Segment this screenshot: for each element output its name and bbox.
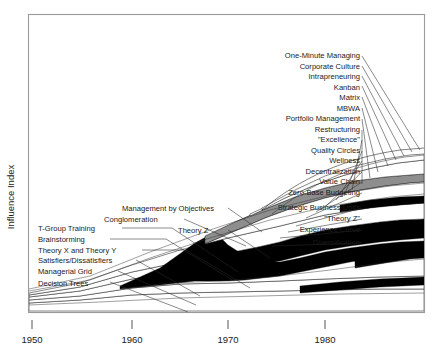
- x-tick-label-1980: 1980: [314, 334, 335, 345]
- series-label-zero-base-budgeting: Zero-Base Budgeting: [288, 188, 360, 197]
- series-label-diversification: Diversification: [313, 238, 360, 247]
- x-tick-label-1950: 1950: [21, 334, 42, 345]
- series-label-conglomeration: Conglomeration: [104, 215, 158, 224]
- series-label-theory-z-quoted: "Theory Z": [324, 214, 360, 223]
- series-label-management-by-objectives: Management by Objectives: [122, 204, 214, 213]
- series-label-decentralization: Decentralization: [306, 167, 360, 176]
- influence-index-streamgraph: One-Minute Managing Corporate Culture In…: [0, 0, 440, 359]
- series-label-value-chain: Value Chain: [319, 177, 360, 186]
- series-label-wellness: Wellness: [329, 156, 360, 165]
- series-label-matrix: Matrix: [339, 93, 360, 102]
- series-label-intrapreneuring: Intrapreneuring: [308, 72, 360, 81]
- series-label-kanban: Kanban: [334, 83, 360, 92]
- x-tick-label-1970: 1970: [217, 334, 238, 345]
- series-label-t-group-training: T-Group Training: [38, 224, 95, 233]
- series-label-one-minute-managing: One-Minute Managing: [285, 51, 360, 60]
- series-label-managerial-grid: Managerial Grid: [38, 267, 92, 276]
- series-label-experience-curve: Experience Curve: [300, 225, 360, 234]
- series-label-satisfiers-dissatisfiers: Satisfiers/Dissatisfiers: [38, 256, 112, 265]
- series-label-excellence: "Excellence": [318, 135, 360, 144]
- x-tick-label-1960: 1960: [121, 334, 142, 345]
- series-label-strategic-business-units: Strategic Business Units: [278, 203, 361, 212]
- series-label-decision-trees: Decision Trees: [38, 279, 88, 288]
- series-label-theory-z: Theory Z: [178, 226, 209, 235]
- series-label-mbwa: MBWA: [337, 104, 361, 113]
- y-axis-title: Influence Index: [5, 165, 16, 230]
- series-label-corporate-culture: Corporate Culture: [300, 62, 360, 71]
- series-label-quality-circles: Quality Circles: [311, 146, 360, 155]
- series-label-theory-x-and-theory-y: Theory X and Theory Y: [38, 246, 116, 255]
- x-axis: 1950 1960 1970 1980: [21, 320, 335, 345]
- chart-canvas: One-Minute Managing Corporate Culture In…: [0, 0, 440, 359]
- series-label-restructuring: Restructuring: [315, 125, 360, 134]
- series-label-portfolio-management: Portfolio Management: [286, 114, 361, 123]
- series-label-brainstorming: Brainstorming: [38, 235, 85, 244]
